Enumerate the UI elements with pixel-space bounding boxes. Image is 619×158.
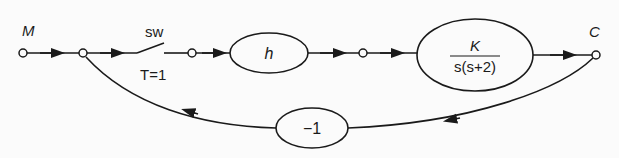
- node-m[interactable]: [19, 49, 27, 57]
- label-sampling-period: T=1: [140, 66, 166, 83]
- label-output-c: C: [589, 23, 600, 40]
- node-n4[interactable]: [359, 49, 367, 57]
- block-plant: [417, 19, 533, 91]
- node-c[interactable]: [592, 51, 600, 59]
- plant-denominator: s(s+2): [454, 58, 496, 75]
- node-n3[interactable]: [188, 49, 196, 57]
- arrow-icon: [450, 118, 460, 120]
- block-feedback-label: −1: [303, 120, 321, 137]
- signal-flow-diagram: M sw T=1 C h K s(s+2) −1: [0, 0, 619, 158]
- sampler-switch[interactable]: [137, 43, 164, 53]
- arrow-icon: [188, 111, 198, 114]
- plant-numerator: K: [470, 37, 481, 54]
- label-switch: sw: [145, 23, 164, 40]
- label-input-m: M: [22, 22, 35, 39]
- block-h-label: h: [265, 45, 274, 62]
- node-n2[interactable]: [79, 49, 87, 57]
- feedback-branch-gain-to-n2: [86, 57, 276, 128]
